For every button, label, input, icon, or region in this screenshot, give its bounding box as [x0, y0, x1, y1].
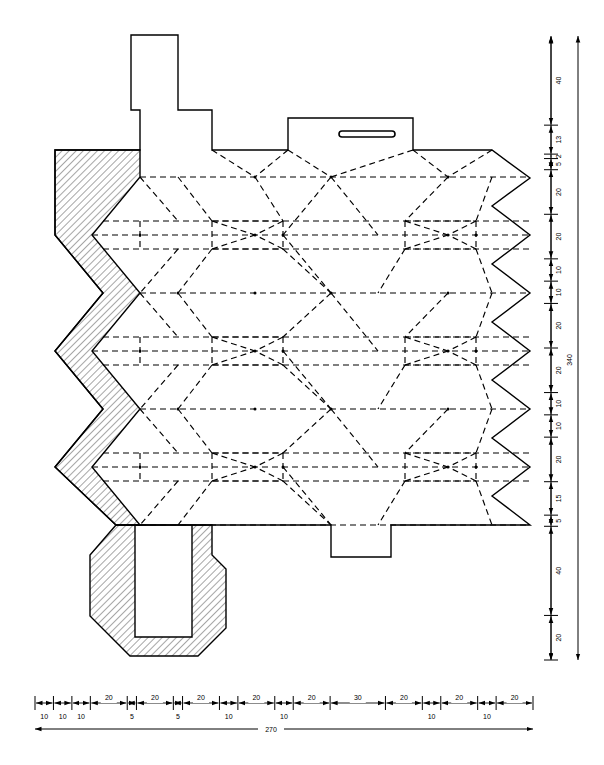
hdim-label: 10: [428, 713, 436, 720]
hdim-label: 30: [354, 694, 362, 701]
hdim-label: 10: [59, 713, 67, 720]
vdim-label: 10: [555, 400, 562, 408]
hdim-label: 20: [511, 694, 519, 701]
technical-drawing-canvas: 4013252020101020201010201554020 340 1010…: [0, 0, 604, 765]
slot-cutout: [339, 131, 395, 137]
vdim-label: 10: [555, 422, 562, 430]
vdim-label: 20: [555, 233, 562, 241]
hdim-label: 10: [40, 713, 48, 720]
hdim-label: 20: [400, 694, 408, 701]
vdim-label: 20: [555, 634, 562, 642]
vdim-label: 13: [555, 136, 562, 144]
vdim-label: 40: [555, 77, 562, 85]
hdim-label: 10: [77, 713, 85, 720]
overall-vertical-label: 340: [566, 354, 573, 366]
hdim-label: 5: [130, 713, 134, 720]
vdim-label: 10: [555, 288, 562, 296]
vdim-label: 10: [555, 266, 562, 274]
hdim-label: 10: [280, 713, 288, 720]
hdim-label: 5: [176, 713, 180, 720]
hdim-label: 20: [455, 694, 463, 701]
slot-rect: [339, 131, 395, 137]
vdim-label: 20: [555, 366, 562, 374]
vdim-label: 15: [555, 494, 562, 502]
hdim-label: 20: [105, 694, 113, 701]
hdim-label: 20: [308, 694, 316, 701]
vdim-label: 20: [555, 188, 562, 196]
vdim-label: 5: [555, 519, 562, 523]
drawing-svg: 4013252020101020201010201554020 340 1010…: [0, 0, 604, 765]
vdim-label: 20: [555, 322, 562, 330]
hdim-label: 20: [151, 694, 159, 701]
hdim-label: 20: [252, 694, 260, 701]
hdim-label: 10: [225, 713, 233, 720]
vdim-label: 40: [555, 567, 562, 575]
vdim-label: 5: [555, 162, 562, 166]
overall-horizontal-label: 270: [265, 726, 277, 733]
hdim-label: 10: [483, 713, 491, 720]
vdim-label: 20: [555, 455, 562, 463]
hdim-label: 20: [197, 694, 205, 701]
vdim-label: 2: [555, 154, 562, 158]
